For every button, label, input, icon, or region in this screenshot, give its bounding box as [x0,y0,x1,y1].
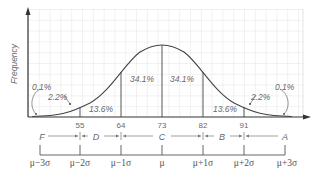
region-percent-6: 2.2% [250,92,271,102]
region-percent-3: 34.1% [130,74,155,84]
sigma-bracket [40,145,285,155]
y-axis-label: Frequency [9,43,19,84]
grade-F: F [39,132,45,142]
sigma-label-mean: μ [159,158,164,168]
sigma-label-plus1: μ+1σ [193,158,213,168]
score-73: 73 [158,121,167,130]
region-percent-2: 13.6% [89,104,114,114]
grade-C: C [159,132,166,142]
score-82: 82 [199,121,208,130]
grade-D: D [93,132,100,142]
score-91: 91 [240,121,249,130]
sigma-label-minus1: μ−1σ [111,158,131,168]
sigma-label-plus2: μ+2σ [234,158,254,168]
normal-distribution-chart: Frequency 0.1% 0.1% 2.2% 13.6% 34.1% 34.… [0,0,316,180]
tail-right-percent: 0.1% [275,82,295,92]
sigma-label-minus2: μ−2σ [70,158,90,168]
tail-left-percent: 0.1% [32,82,52,92]
score-55: 55 [76,121,85,130]
grade-B: B [219,132,225,142]
score-64: 64 [117,121,126,130]
region-percent-4: 34.1% [170,74,195,84]
grade-A: A [281,132,288,142]
sigma-label-plus3: μ+3σ [277,158,297,168]
sigma-label-minus3: μ−3σ [30,158,50,168]
region-percent-5: 13.6% [213,104,238,114]
region-percent-1: 2.2% [47,92,68,102]
